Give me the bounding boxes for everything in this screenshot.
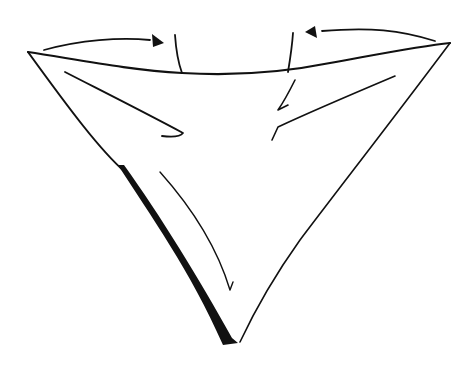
crease-left <box>175 35 182 73</box>
fold-diagram-svg <box>0 0 473 371</box>
shadow-edge <box>118 165 238 345</box>
fold-diagram <box>0 0 473 371</box>
left-arrow-icon <box>44 34 164 50</box>
right-arrow-icon <box>305 26 435 41</box>
crease-right <box>288 33 293 72</box>
triangle-outline <box>28 43 450 342</box>
